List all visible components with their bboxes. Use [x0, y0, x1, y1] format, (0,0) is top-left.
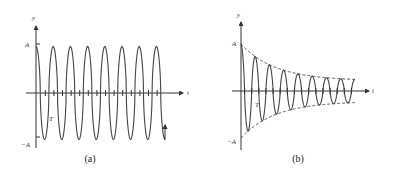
neg-amplitude-label-b: −A — [227, 138, 237, 146]
figure: y t A −A T (a) y t A −A T (b) — [0, 0, 394, 178]
pos-amplitude-label-b: A — [231, 40, 237, 48]
y-axis-label-a: y — [31, 14, 36, 22]
caption-a: (a) — [84, 153, 95, 165]
neg-amplitude-label-a: −A — [21, 141, 31, 149]
y-axis-label-b: y — [236, 11, 241, 19]
pos-amplitude-label-a: A — [24, 41, 30, 49]
panel-a: y t A −A T (a) — [21, 14, 190, 165]
period-label-a: T — [49, 115, 54, 123]
caption-b: (b) — [292, 153, 304, 165]
x-axis-label-b: t — [372, 87, 375, 95]
oscillation-curve-b — [241, 44, 355, 131]
panel-b: y t A −A T (b) — [227, 11, 375, 165]
x-axis-label-a: t — [187, 89, 190, 97]
